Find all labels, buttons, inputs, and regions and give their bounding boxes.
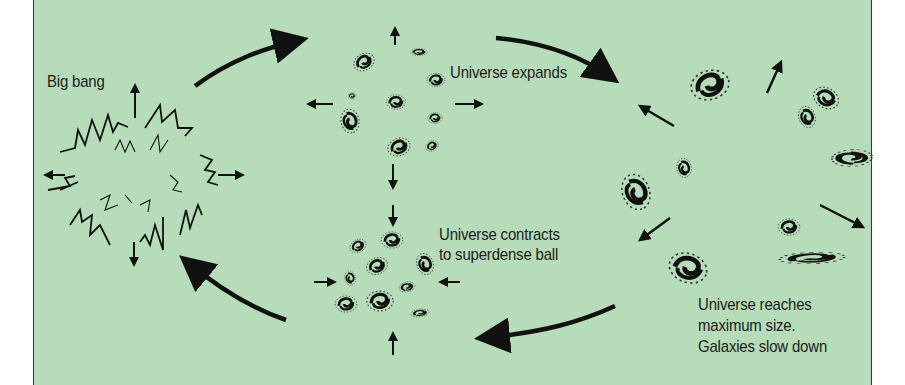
cycle-arrows bbox=[186, 38, 615, 338]
big-bang-burst bbox=[48, 105, 218, 250]
label-universe-expands: Universe expands bbox=[450, 63, 567, 82]
label-contracts-line2: to superdense ball bbox=[439, 245, 558, 264]
label-big-bang: Big bang bbox=[47, 72, 105, 91]
expand-arrows bbox=[308, 28, 482, 188]
expand-galaxies bbox=[339, 48, 445, 159]
label-max-line1: Universe reaches bbox=[698, 295, 812, 314]
label-contracts-line1: Universe contracts bbox=[439, 225, 560, 244]
contract-galaxies bbox=[335, 232, 436, 319]
max-size-arrows bbox=[640, 62, 863, 240]
label-max-line3: Galaxies slow down bbox=[698, 337, 827, 356]
max-size-galaxies bbox=[617, 66, 876, 288]
label-max-line2: maximum size. bbox=[698, 316, 795, 335]
